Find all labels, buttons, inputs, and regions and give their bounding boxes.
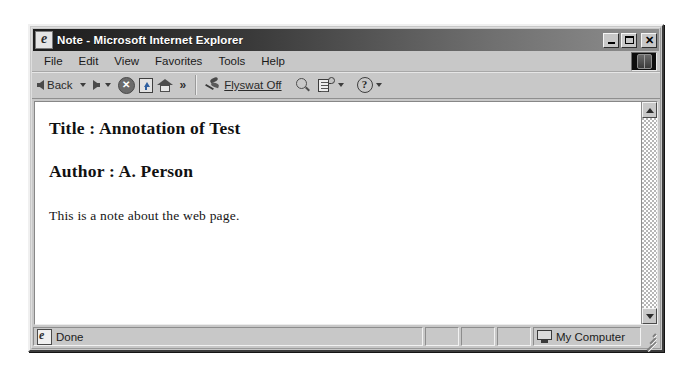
status-bar: Done My Computer — [33, 326, 659, 347]
scroll-up-arrow-icon — [646, 108, 654, 113]
scroll-down-arrow-icon — [646, 314, 654, 319]
notes-icon — [318, 77, 335, 93]
minimize-icon — [608, 42, 615, 44]
forward-button[interactable] — [91, 74, 102, 96]
refresh-button[interactable] — [137, 74, 155, 96]
magnifier-icon — [295, 77, 311, 93]
home-button[interactable] — [155, 74, 175, 96]
window-title: Note - Microsoft Internet Explorer — [57, 34, 603, 46]
menu-item-edit[interactable]: Edit — [71, 53, 107, 69]
stop-button[interactable]: ✕ — [116, 74, 137, 96]
monitor-icon — [537, 330, 552, 343]
scrollbar-track[interactable] — [642, 118, 657, 308]
window-controls: ✕ — [603, 33, 657, 48]
flyswat-help-button[interactable]: ? — [351, 74, 389, 96]
menu-item-help[interactable]: Help — [253, 53, 293, 69]
security-zone-panel[interactable]: My Computer — [533, 327, 641, 346]
scroll-down-button[interactable] — [642, 308, 657, 324]
title-bar[interactable]: e Note - Microsoft Internet Explorer ✕ — [33, 29, 659, 51]
web-page-document: Title : Annotation of Test Author : A. P… — [35, 102, 641, 324]
close-icon: ✕ — [645, 35, 654, 46]
flyswat-button[interactable]: Flyswat Off — [201, 74, 289, 96]
menu-item-view[interactable]: View — [106, 53, 147, 69]
navigation-toolbar: Back ✕ » — [32, 72, 660, 99]
menu-item-file[interactable]: File — [36, 53, 71, 69]
note-body-text: This is a note about the web page. — [49, 208, 641, 224]
question-mark-icon: ? — [357, 77, 373, 93]
browser-content-frame: Title : Annotation of Test Author : A. P… — [34, 101, 658, 325]
back-arrow-icon — [37, 80, 44, 90]
security-zone-label: My Computer — [556, 331, 625, 343]
back-dropdown-icon[interactable] — [80, 83, 86, 87]
toolbar-overflow-button[interactable]: » — [180, 78, 187, 92]
flyswat-notes-button[interactable] — [316, 74, 351, 96]
maximize-button[interactable] — [621, 33, 637, 48]
menu-item-favorites[interactable]: Favorites — [147, 53, 210, 69]
back-button[interactable]: Back — [35, 74, 77, 96]
home-icon — [157, 78, 173, 93]
status-panel-4 — [497, 327, 531, 346]
flyswat-search-button[interactable] — [290, 74, 316, 96]
note-title-heading: Title : Annotation of Test — [49, 118, 641, 139]
minimize-button[interactable] — [603, 33, 619, 48]
scroll-up-button[interactable] — [642, 102, 657, 118]
vertical-scrollbar[interactable] — [641, 102, 657, 324]
status-panel-2 — [425, 327, 459, 346]
status-message: Done — [56, 331, 84, 343]
status-panel-3 — [461, 327, 495, 346]
toolbar-separator — [195, 75, 197, 95]
ie-document-icon: e — [35, 31, 53, 49]
forward-dropdown-icon[interactable] — [105, 83, 111, 87]
refresh-icon — [139, 78, 153, 93]
maximize-icon — [625, 36, 634, 44]
status-message-panel: Done — [33, 327, 423, 346]
resize-grip[interactable] — [643, 327, 658, 346]
flyswat-status-label[interactable]: Flyswat Off — [224, 79, 281, 91]
menu-item-tools[interactable]: Tools — [210, 53, 253, 69]
window-inner-frame: e Note - Microsoft Internet Explorer ✕ F… — [31, 27, 661, 349]
forward-arrow-icon — [93, 80, 100, 90]
stop-icon: ✕ — [118, 77, 135, 94]
ie-browser-window: e Note - Microsoft Internet Explorer ✕ F… — [28, 24, 664, 352]
notes-dropdown-icon[interactable] — [338, 83, 344, 87]
internet-explorer-logo — [631, 52, 657, 71]
back-label: Back — [47, 79, 73, 91]
help-dropdown-icon[interactable] — [376, 83, 382, 87]
flyswat-icon — [203, 77, 220, 93]
close-button[interactable]: ✕ — [641, 33, 657, 48]
ie-document-icon — [37, 329, 52, 345]
note-author-heading: Author : A. Person — [49, 161, 641, 182]
menu-bar: File Edit View Favorites Tools Help — [32, 51, 660, 72]
